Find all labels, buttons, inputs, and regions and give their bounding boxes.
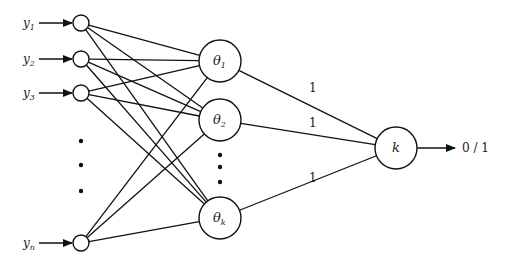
edge-theta1-k <box>239 70 377 138</box>
input-ellipsis-dot <box>79 189 83 193</box>
input-node-y3 <box>73 85 89 101</box>
edge-theta2-k <box>241 123 376 144</box>
input-node-yn <box>73 235 89 251</box>
weight-label-thetak: 1 <box>309 171 317 185</box>
edge-y1-theta2 <box>88 28 203 108</box>
output-node-label: k <box>392 140 400 155</box>
edge-y3-theta2 <box>89 95 200 116</box>
input-ellipsis-dot <box>79 139 83 143</box>
input-label-y1: y1 <box>22 16 35 32</box>
edge-yn-thetak <box>89 222 199 242</box>
hidden-ellipsis-dot <box>218 153 222 157</box>
edge-y1-thetak <box>86 30 208 201</box>
input-label-y2: y2 <box>22 52 35 68</box>
edge-thetak-k <box>240 156 377 210</box>
hidden-ellipsis-dot <box>218 165 222 169</box>
input-node-y2 <box>73 51 89 67</box>
edge-yn-theta1 <box>86 78 207 237</box>
network-canvas: y1y2y3yn0 / 1θ1θ2θkk111 <box>0 0 507 268</box>
input-node-y1 <box>73 15 89 31</box>
weight-label-theta1: 1 <box>309 81 317 95</box>
input-label-yn: yn <box>22 236 35 252</box>
input-label-y3: y3 <box>22 86 35 102</box>
input-ellipsis-dot <box>79 163 83 167</box>
weight-label-theta2: 1 <box>309 116 317 130</box>
neural-network-diagram: y1y2y3yn0 / 1θ1θ2θkk111 <box>0 0 507 268</box>
edge-y2-thetak <box>86 65 206 202</box>
edge-yn-theta2 <box>87 134 204 238</box>
labels-layer: y1y2y3yn0 / 1θ1θ2θkk111 <box>22 16 489 252</box>
output-label: 0 / 1 <box>462 141 489 155</box>
edge-y2-theta1 <box>89 59 199 61</box>
hidden-ellipsis-dot <box>218 180 222 184</box>
